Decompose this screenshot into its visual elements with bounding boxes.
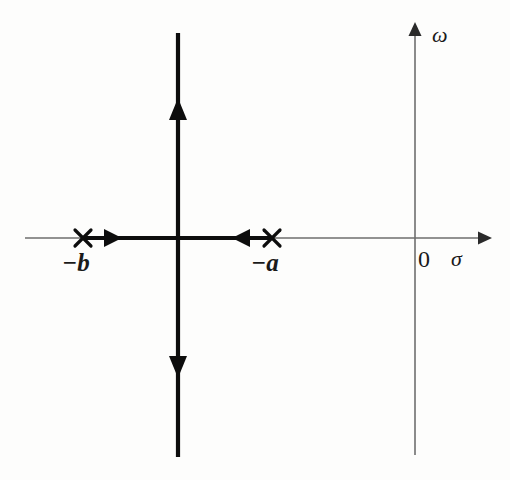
- locus-branch-vertical: [169, 33, 187, 457]
- real-axis-label: σ: [451, 248, 462, 270]
- locus-arrow-up-icon: [169, 98, 187, 120]
- root-locus-figure: −b −a 0 σ ω: [0, 0, 510, 480]
- imaginary-axis-label: ω: [432, 24, 448, 46]
- root-locus-canvas: [0, 0, 510, 480]
- origin-label: 0: [418, 247, 430, 271]
- imaginary-axis-arrow-icon: [409, 22, 422, 36]
- locus-arrow-down-icon: [169, 356, 187, 378]
- pole-label-minus-b: −b: [62, 250, 90, 275]
- locus-arrow-left-icon: [232, 229, 250, 247]
- locus-arrow-right-icon: [104, 229, 122, 247]
- pole-label-minus-a: −a: [251, 250, 279, 275]
- real-axis-arrow-icon: [478, 232, 492, 245]
